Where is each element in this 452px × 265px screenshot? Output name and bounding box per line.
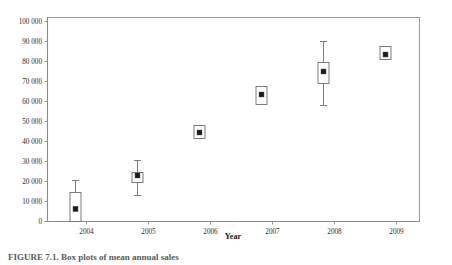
box-plot-group [318,42,329,106]
x-axis-title: Year [225,232,242,241]
mean-marker [321,69,326,74]
mean-marker [73,207,78,212]
y-tick-label: 40 000 [22,138,42,146]
mean-marker [197,130,202,135]
mean-marker [135,173,140,178]
box-plot-group [132,161,143,196]
y-tick-label: 10 000 [22,198,42,206]
figure-caption: FIGURE 7.1. Box plots of mean annual sal… [8,252,444,263]
x-tick-label: 2004 [79,228,94,236]
x-tick-label: 2008 [327,228,342,236]
y-tick-label: 100 000 [19,18,43,26]
y-tick-label: 20 000 [22,178,42,186]
x-axis-ticks: 200420052006200720082009 [79,222,404,236]
figure-container: 010 00020 00030 00040 00050 00060 00070 … [0,0,452,265]
box-plot-group [194,126,205,139]
x-tick-label: 2006 [203,228,218,236]
x-tick-label: 2005 [141,228,156,236]
y-tick-label: 80 000 [22,58,42,66]
x-tick-label: 2009 [389,228,404,236]
mean-marker [259,92,264,97]
y-tick-label: 70 000 [22,78,42,86]
mean-marker [383,52,388,57]
y-tick-label: 60 000 [22,98,42,106]
y-tick-label: 50 000 [22,118,42,126]
y-tick-label: 90 000 [22,38,42,46]
box-plot-chart: 010 00020 00030 00040 00050 00060 00070 … [0,0,452,242]
y-axis-ticks: 010 00020 00030 00040 00050 00060 00070 … [19,18,48,226]
box-plot-group [70,181,81,222]
box-plot-group [380,47,391,60]
x-tick-label: 2007 [265,228,280,236]
y-tick-label: 0 [38,218,42,226]
plot-frame [48,18,420,222]
box-plot-group [256,87,267,105]
y-tick-label: 30 000 [22,158,42,166]
box-plot-series [70,42,391,222]
